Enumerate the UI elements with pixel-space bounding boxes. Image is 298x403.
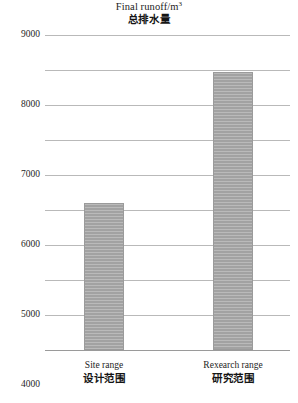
category-label-chinese: 设计范围 xyxy=(44,371,164,385)
bar-2 xyxy=(213,72,253,350)
gridline: 9000 xyxy=(45,35,290,36)
category-label-chinese: 研究范围 xyxy=(173,371,293,385)
category-label-1: Site range设计范围 xyxy=(44,359,164,385)
gridline: 6000 xyxy=(45,140,290,141)
gridline: 4000 xyxy=(45,210,290,211)
y-axis-tick-label: 5000 xyxy=(21,310,40,320)
y-axis-tick-label: 6000 xyxy=(21,240,40,250)
category-label-english: Rexearch range xyxy=(173,359,293,371)
chart-title-chinese: 总排水量 xyxy=(0,13,298,26)
y-axis-tick-label: 9000 xyxy=(21,30,40,40)
y-axis-tick-label: 8000 xyxy=(21,100,40,110)
chart-title-english-text: Final runoff/m xyxy=(116,1,179,12)
y-axis-tick-label: 4000 xyxy=(21,380,40,390)
category-label-2: Rexearch range研究范围 xyxy=(173,359,293,385)
gridline: 1000 xyxy=(45,315,290,316)
gridline: 8000 xyxy=(45,70,290,71)
chart-title-block: Final runoff/m3 总排水量 xyxy=(0,0,298,26)
bar-1 xyxy=(84,203,124,350)
chart-title-english: Final runoff/m3 xyxy=(0,1,298,13)
chart-title-superscript: 3 xyxy=(179,0,183,8)
y-axis-tick-label: 7000 xyxy=(21,170,40,180)
gridline: 3000 xyxy=(45,245,290,246)
gridline: 5000 xyxy=(45,175,290,176)
axis-line-zero: 0 xyxy=(45,350,290,351)
gridline: 7000 xyxy=(45,105,290,106)
category-label-english: Site range xyxy=(44,359,164,371)
gridline: 2000 xyxy=(45,280,290,281)
plot-area: 9000800070006000500040003000200010000 xyxy=(45,35,290,350)
